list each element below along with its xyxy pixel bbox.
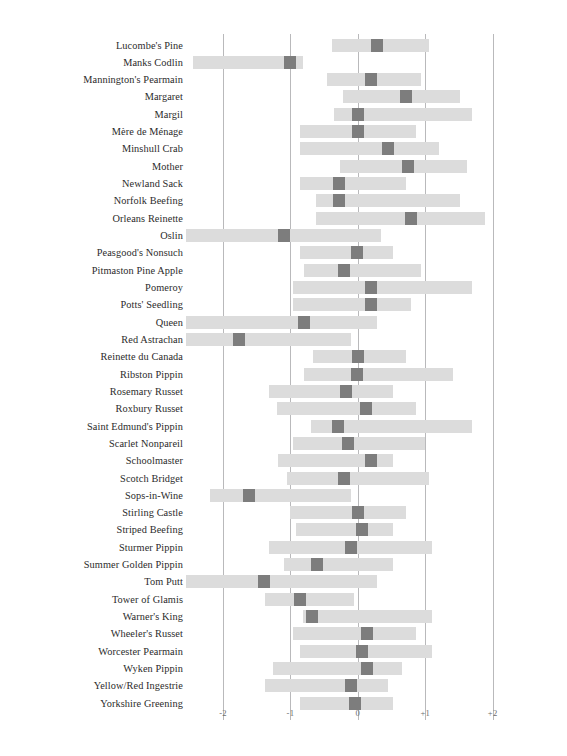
category-label: Lucombe's Pine: [0, 40, 183, 51]
category-label: Pitmaston Pine Apple: [0, 265, 183, 276]
category-label: Potts' Seedling: [0, 299, 183, 310]
category-label: Orleans Reinette: [0, 213, 183, 224]
category-label: Red Astrachan: [0, 334, 183, 345]
category-label: Sops-in-Wine: [0, 490, 183, 501]
category-label: Warner's King: [0, 611, 183, 622]
x-tick-label: +2: [488, 708, 498, 718]
category-label: Tom Putt: [0, 576, 183, 587]
category-label: Striped Beefing: [0, 524, 183, 535]
category-label: Mère de Ménage: [0, 126, 183, 137]
category-label: Peasgood's Nonsuch: [0, 247, 183, 258]
category-label: Worcester Pearmain: [0, 646, 183, 657]
x-tick-label: -2: [219, 708, 227, 718]
category-label: Scotch Bridget: [0, 473, 183, 484]
category-label: Ribston Pippin: [0, 369, 183, 380]
category-label: Mannington's Pearmain: [0, 74, 183, 85]
category-label: Schoolmaster: [0, 455, 183, 466]
category-label: Wyken Pippin: [0, 663, 183, 674]
category-label: Margil: [0, 109, 183, 120]
category-label: Yorkshire Greening: [0, 698, 183, 709]
category-label: Norfolk Beefing: [0, 195, 183, 206]
category-label: Yellow/Red Ingestrie: [0, 680, 183, 691]
x-axis-tick-labels: -2-10+1+2: [186, 0, 523, 756]
category-label: Minshull Crab: [0, 143, 183, 154]
category-label: Reinette du Canada: [0, 351, 183, 362]
chart-root: Lucombe's PineManks CodlinMannington's P…: [0, 0, 567, 756]
category-label: Sturmer Pippin: [0, 542, 183, 553]
category-label: Saint Edmund's Pippin: [0, 421, 183, 432]
category-label: Mother: [0, 161, 183, 172]
category-label: Newland Sack: [0, 178, 183, 189]
category-label: Queen: [0, 317, 183, 328]
category-label: Stirling Castle: [0, 507, 183, 518]
category-label: Roxbury Russet: [0, 403, 183, 414]
category-label: Scarlet Nonpareil: [0, 438, 183, 449]
category-label: Margaret: [0, 91, 183, 102]
x-tick-label: 0: [356, 708, 361, 718]
category-label: Pomeroy: [0, 282, 183, 293]
category-label: Summer Golden Pippin: [0, 559, 183, 570]
category-label: Wheeler's Russet: [0, 628, 183, 639]
x-tick-label: +1: [420, 708, 430, 718]
category-label: Rosemary Russet: [0, 386, 183, 397]
category-label: Tower of Glamis: [0, 594, 183, 605]
category-label: Oslin: [0, 230, 183, 241]
x-tick-label: -1: [287, 708, 295, 718]
category-label: Manks Codlin: [0, 57, 183, 68]
